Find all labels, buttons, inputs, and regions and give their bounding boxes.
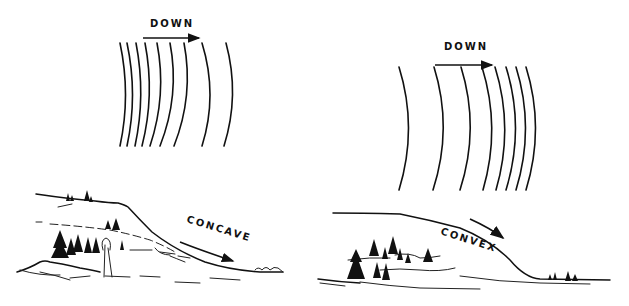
convex-landscape [318,213,610,289]
concave-label: CONCAVE [185,213,252,243]
convex-panel: DOWN [318,41,610,289]
down-label-right: DOWN [444,41,488,52]
contour-lines-convex [399,67,536,190]
down-label-left: DOWN [150,18,194,29]
contour-lines-concave [120,43,233,146]
slope-diagram: DOWN [0,0,629,306]
concave-panel: DOWN [17,18,283,283]
